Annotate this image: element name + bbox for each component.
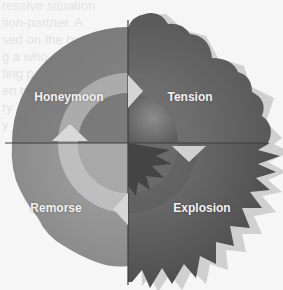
stage-label-tension: Tension — [167, 90, 212, 104]
stage-label-remorse: Remorse — [30, 201, 81, 215]
stage-label-honeymoon: Honeymoon — [34, 90, 103, 104]
stage-label-explosion: Explosion — [173, 201, 230, 215]
cycle-diagram — [0, 0, 283, 290]
